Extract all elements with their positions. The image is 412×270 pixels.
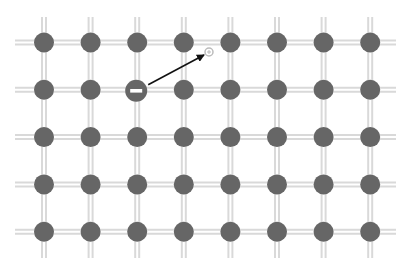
lattice-atom (174, 33, 194, 53)
lattice-atom (127, 174, 147, 194)
lattice-atom (267, 222, 287, 242)
lattice-atom (220, 33, 240, 53)
lattice-atom (220, 174, 240, 194)
lattice-diagram (0, 0, 412, 270)
lattice-atom (81, 127, 101, 147)
lattice-atom (314, 33, 334, 53)
lattice-atom (81, 80, 101, 100)
lattice-atom (34, 33, 54, 53)
lattice-atom (81, 174, 101, 194)
lattice-atom (34, 80, 54, 100)
lattice-atom (81, 222, 101, 242)
lattice-atom (81, 33, 101, 53)
lattice-atom (127, 33, 147, 53)
lattice-atom (267, 33, 287, 53)
minus-sign-icon (130, 89, 142, 93)
lattice-atom (34, 174, 54, 194)
lattice-atom (267, 127, 287, 147)
lattice-atom (267, 174, 287, 194)
lattice-atom (34, 127, 54, 147)
lattice-atom (314, 80, 334, 100)
lattice-atom (34, 222, 54, 242)
lattice-atom (314, 174, 334, 194)
lattice-atoms (34, 33, 380, 242)
lattice-atom (314, 127, 334, 147)
lattice-atom (360, 222, 380, 242)
lattice-atom (360, 127, 380, 147)
lattice-atom (127, 222, 147, 242)
lattice-atom (220, 127, 240, 147)
lattice-atom (360, 80, 380, 100)
lattice-atom (174, 80, 194, 100)
lattice-atom (174, 174, 194, 194)
lattice-atom (174, 222, 194, 242)
motion-arrow (148, 55, 204, 85)
lattice-atom (174, 127, 194, 147)
lattice-atom (314, 222, 334, 242)
lattice-atom (360, 174, 380, 194)
lattice-atom (220, 80, 240, 100)
lattice-atom (127, 127, 147, 147)
lattice-atom (360, 33, 380, 53)
lattice-atom (220, 222, 240, 242)
lattice-atom (267, 80, 287, 100)
